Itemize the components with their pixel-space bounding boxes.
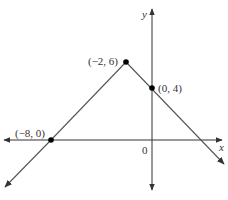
point-neg8-0 [48, 137, 54, 143]
right-branch-line [126, 62, 224, 164]
point-0-4 [149, 85, 155, 91]
graph: x y 0 (−8, 0) (−2, 6) (0, 4) [0, 0, 228, 200]
label-neg2-6: (−2, 6) [88, 55, 118, 68]
label-neg8-0: (−8, 0) [15, 127, 45, 140]
y-axis-label: y [141, 8, 147, 20]
label-0-4: (0, 4) [158, 82, 182, 95]
point-neg2-6 [123, 59, 129, 65]
origin-label: 0 [142, 144, 148, 156]
rising-segment [51, 62, 126, 140]
left-branch-line [5, 140, 51, 187]
x-axis-label: x [218, 141, 224, 153]
